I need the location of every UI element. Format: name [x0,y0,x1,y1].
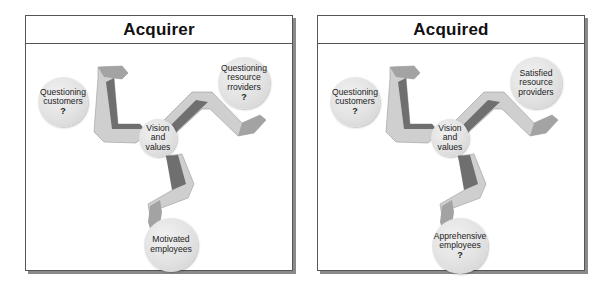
acquirer-panel: Acquirer Questioning customers ? Questio… [25,15,293,271]
acquired-panel: Acquired Questioning customers ? Satisfi… [317,15,585,271]
question-mark: ? [352,107,358,117]
vision-values-node: Vision and values [431,119,469,157]
resource-providers-node: Satisfied resource providers [510,57,562,109]
employees-line-2: employees [150,245,192,255]
employees-node: Motivated employees [144,218,198,272]
customers-node: Questioning customers ? [330,77,380,127]
question-mark: ? [241,93,247,103]
customers-node: Questioning customers ? [38,77,88,127]
vision-values-node: Vision and values [139,119,177,157]
center-line-3: values [438,143,463,153]
resource-line-3: providers [518,88,553,98]
resource-providers-node: Questioning resource rroviders ? [218,57,270,109]
employees-node: Apprehensive employees ? [432,218,488,274]
center-line-3: values [146,143,171,153]
question-mark: ? [457,251,463,261]
question-mark: ? [60,107,66,117]
